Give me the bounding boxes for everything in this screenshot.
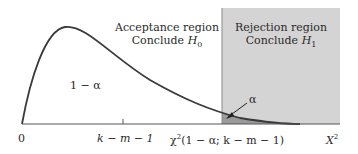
chi-symbol: χ xyxy=(170,134,177,147)
acceptance-hyp: H xyxy=(188,34,198,47)
rejection-sub: 1 xyxy=(311,40,316,49)
rejection-region-label: Rejection region Conclude H1 xyxy=(225,21,337,51)
alpha-label: α xyxy=(249,93,256,106)
x-axis-sup: 2 xyxy=(334,133,338,141)
acceptance-title: Acceptance region xyxy=(112,21,222,34)
x-axis-main: X xyxy=(326,134,334,147)
acceptance-region-label: Acceptance region Conclude H0 xyxy=(112,21,222,51)
rejection-conclusion: Conclude H1 xyxy=(225,34,337,51)
rejection-prefix: Conclude xyxy=(246,34,302,47)
mean-tick-text: k − m − 1 xyxy=(97,132,154,145)
origin-tick-label: 0 xyxy=(18,132,25,145)
acceptance-sub: 0 xyxy=(197,40,202,49)
critical-args: (1 − α; k − m − 1) xyxy=(181,134,284,147)
rejection-hyp: H xyxy=(302,34,312,47)
one-minus-alpha-label: 1 − α xyxy=(70,79,101,92)
mean-tick-label: k − m − 1 xyxy=(97,132,154,145)
critical-value-label: χ2(1 − α; k − m − 1) xyxy=(170,131,284,147)
acceptance-prefix: Conclude xyxy=(132,34,188,47)
x-axis-label: X2 xyxy=(326,131,338,147)
acceptance-conclusion: Conclude H0 xyxy=(112,34,222,51)
rejection-title: Rejection region xyxy=(225,21,337,34)
